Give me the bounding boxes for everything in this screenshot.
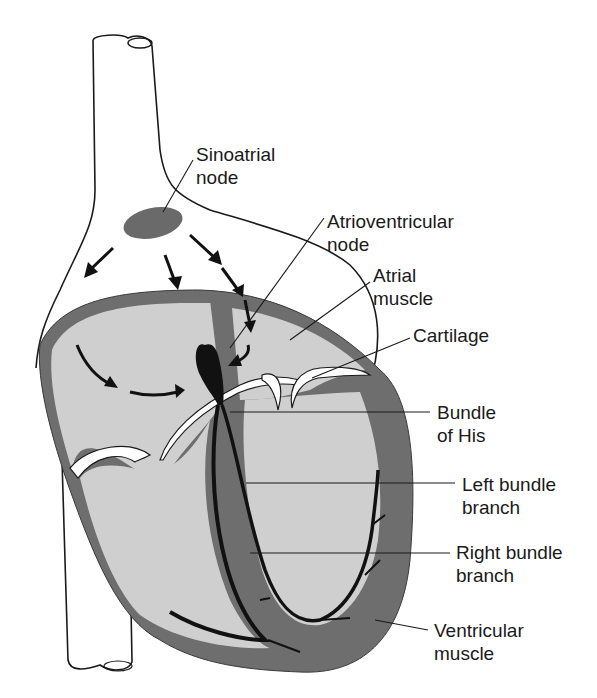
label-atrial-muscle: Atrial muscle (373, 264, 433, 310)
label-line: of His (437, 424, 496, 447)
label-line: Left bundle (462, 473, 556, 496)
label-sinoatrial-node: Sinoatrial node (196, 143, 275, 189)
label-line: branch (462, 496, 556, 519)
label-line: branch (456, 564, 563, 587)
label-line: Atrioventricular (327, 210, 454, 233)
label-bundle-of-his: Bundle of His (437, 401, 496, 447)
label-line: muscle (373, 287, 433, 310)
label-line: muscle (434, 642, 524, 665)
label-line: Bundle (437, 401, 496, 424)
label-atrioventricular-node: Atrioventricular node (327, 210, 454, 256)
sinoatrial-node-shape (121, 202, 186, 244)
label-cartilage: Cartilage (413, 324, 489, 347)
label-line: node (196, 166, 275, 189)
label-line: node (327, 233, 454, 256)
label-line: Sinoatrial (196, 143, 275, 166)
label-line: Right bundle (456, 541, 563, 564)
heart-conduction-illustration (0, 0, 597, 698)
label-right-bundle-branch: Right bundle branch (456, 541, 563, 587)
label-left-bundle-branch: Left bundle branch (462, 473, 556, 519)
label-line: Atrial (373, 264, 433, 287)
label-line: Ventricular (434, 619, 524, 642)
label-ventricular-muscle: Ventricular muscle (434, 619, 524, 665)
label-line: Cartilage (413, 324, 489, 347)
